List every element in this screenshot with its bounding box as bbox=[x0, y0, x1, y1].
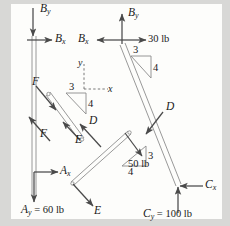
label-load-50: 50 lb bbox=[128, 158, 149, 169]
arrow-force-f-upper bbox=[36, 86, 56, 110]
label-load-30: 30 lb bbox=[148, 33, 169, 44]
axes-indicator-graphic bbox=[84, 64, 108, 89]
label-axes-y: y bbox=[78, 57, 82, 68]
label-ay-value: = 60 lb bbox=[32, 204, 64, 215]
label-axes-x: x bbox=[108, 83, 112, 94]
arrow-force-e-lower bbox=[73, 184, 93, 206]
slope-triangle-upper-right bbox=[131, 56, 151, 78]
label-force-e-lower: E bbox=[94, 204, 101, 216]
label-ax: Ax bbox=[60, 164, 71, 178]
label-ay: Ay = 60 lb bbox=[21, 203, 64, 217]
label-by-left: By bbox=[40, 2, 51, 16]
label-force-f-upper: F bbox=[32, 75, 39, 87]
label-bx-right: Bx bbox=[78, 32, 89, 46]
slope-triangle-left-member bbox=[66, 93, 86, 114]
label-force-e-upper: E bbox=[75, 133, 82, 145]
free-body-diagram-graphic bbox=[0, 0, 230, 226]
arrow-force-d-upper bbox=[80, 124, 101, 147]
label-cx: Cx bbox=[205, 178, 216, 192]
label-bx-left: Bx bbox=[55, 32, 66, 46]
label-force-d-right: D bbox=[166, 100, 174, 112]
slope-label-upper-right-run: 4 bbox=[153, 62, 158, 73]
label-cy: Cy = 100 lb bbox=[143, 207, 192, 221]
arrow-load-50 bbox=[125, 133, 142, 156]
figure-stage: By Bx Bx By 30 lb y x 3 4 3 4 3 4 F F D … bbox=[0, 0, 230, 226]
label-force-f-lower: F bbox=[40, 127, 47, 139]
slope-label-upper-right-rise: 3 bbox=[133, 44, 138, 55]
slope-label-left-member-run: 4 bbox=[88, 98, 93, 109]
slope-label-left-member-rise: 3 bbox=[69, 81, 74, 92]
label-by-right: By bbox=[128, 6, 139, 20]
label-force-d-upper: D bbox=[89, 114, 97, 126]
label-cy-value: = 100 lb bbox=[154, 208, 192, 219]
